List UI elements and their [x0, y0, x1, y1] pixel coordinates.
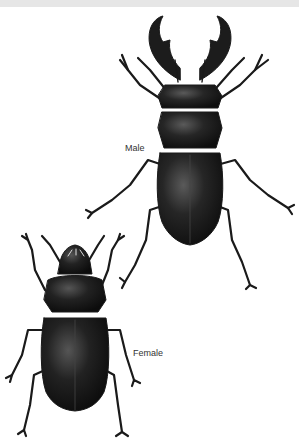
female-label: Female: [133, 348, 163, 358]
male-beetle: [86, 16, 294, 289]
beetle-illustration: [0, 0, 299, 447]
male-label: Male: [125, 143, 145, 153]
female-beetle: [6, 234, 140, 436]
